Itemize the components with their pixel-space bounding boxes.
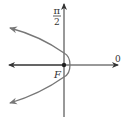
parabola-upper-arm bbox=[10, 28, 64, 53]
parabola-lower-arm bbox=[10, 77, 64, 103]
label-polar-axis-zero: 0 bbox=[115, 54, 121, 64]
polar-diagram: π 2 0 F bbox=[0, 0, 122, 117]
label-pi: π bbox=[54, 5, 61, 16]
label-focus: F bbox=[53, 69, 62, 80]
focus-point bbox=[62, 63, 66, 67]
label-2: 2 bbox=[54, 17, 60, 27]
